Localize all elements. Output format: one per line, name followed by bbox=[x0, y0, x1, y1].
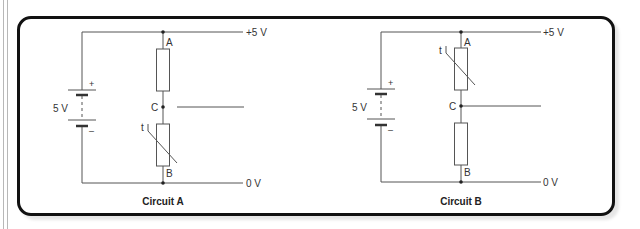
circuit-a-minus-sign: – bbox=[89, 126, 94, 136]
circuit-b-junction-c bbox=[459, 104, 463, 108]
circuit-a-supply-label: 5 V bbox=[53, 103, 68, 114]
circuit-a-rail-top-label: +5 V bbox=[246, 27, 267, 38]
circuit-b-minus-sign: – bbox=[388, 125, 393, 135]
circuit-b-rail-bottom-label: 0 V bbox=[543, 177, 558, 188]
circuit-b-battery bbox=[367, 89, 395, 125]
circuit-a-junction-c bbox=[161, 105, 165, 109]
circuit-a-battery bbox=[68, 90, 96, 126]
circuit-b-thermistor-label: t bbox=[439, 45, 442, 56]
circuit-a-rail-bottom-label: 0 V bbox=[246, 178, 261, 189]
circuit-b-node-c: C bbox=[449, 101, 456, 112]
circuit-a-junction-bottom bbox=[161, 181, 165, 185]
circuit-a-node-b: B bbox=[166, 168, 173, 179]
circuit-b-junction-top bbox=[459, 30, 463, 34]
circuit-b-resistor bbox=[455, 123, 468, 165]
circuit-a-caption: Circuit A bbox=[142, 196, 183, 207]
circuit-a-thermistor-label: t bbox=[141, 122, 144, 133]
circuit-b-junction-bottom bbox=[459, 180, 463, 184]
circuit-b-node-b: B bbox=[464, 167, 471, 178]
circuit-a-junction-top bbox=[161, 30, 165, 34]
circuit-a-node-c: C bbox=[151, 102, 158, 113]
circuit-a-plus-sign: + bbox=[89, 79, 94, 89]
circuit-b-caption: Circuit B bbox=[440, 196, 482, 207]
circuit-diagram: + – 5 V A C B t +5 V 0 V Circuit A bbox=[0, 0, 640, 229]
circuit-b-rail-top-label: +5 V bbox=[543, 27, 564, 38]
circuit-b-node-a: A bbox=[464, 37, 471, 48]
circuit-b-plus-sign: + bbox=[388, 78, 393, 88]
circuit-a-thermistor bbox=[157, 124, 170, 166]
circuit-a-resistor bbox=[157, 49, 170, 91]
circuit-b-supply-label: 5 V bbox=[352, 102, 367, 113]
circuit-a-node-a: A bbox=[166, 37, 173, 48]
